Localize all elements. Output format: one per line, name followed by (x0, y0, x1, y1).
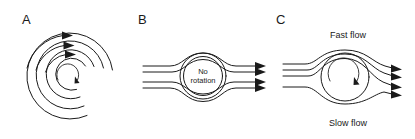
panel-a-arrowhead-3 (65, 51, 76, 59)
panel-b-letter: B (138, 12, 147, 27)
panel-c-fast-flow-label: Fast flow (330, 30, 367, 40)
panel-c-streamline-3 (283, 59, 396, 88)
panel-a-arrowhead-2 (64, 42, 75, 50)
panel-c-streamline-4 (283, 87, 396, 104)
panel-a-letter: A (22, 12, 31, 27)
panel-c-arrowhead-1 (391, 65, 402, 73)
panel-c-arrowhead-4 (391, 91, 402, 99)
panel-a-graphic: A No rotation B (0, 0, 415, 139)
panel-b-arrowhead-2 (255, 68, 266, 76)
panel-b-circle-label-line2: rotation (190, 76, 215, 85)
panel-a-arc-2 (46, 50, 94, 99)
panel-b-circle-label-line1: No (198, 67, 208, 76)
panel-c-slow-flow-label: Slow flow (329, 118, 368, 128)
panel-c-arrowhead-2 (391, 73, 402, 81)
panel-c-streamline-2 (283, 54, 396, 77)
panel-b-streamline-4 (143, 88, 258, 102)
panel-c-arrowhead-3 (391, 83, 402, 91)
panel-c-letter: C (276, 12, 285, 27)
panel-a-arc-inner (56, 58, 86, 90)
panel-c-streamline-1 (283, 50, 396, 69)
figure-magnus-effect-diagram: A No rotation B (0, 0, 415, 139)
panel-b-arrowhead-4 (255, 84, 266, 92)
